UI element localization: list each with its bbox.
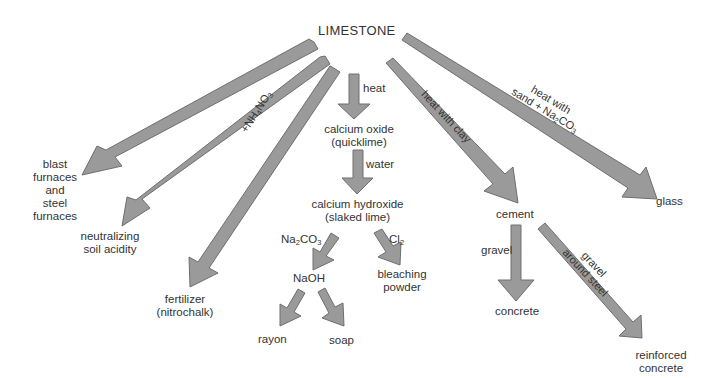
label-line: (slaked lime) <box>300 211 415 224</box>
node-reinforced-concrete: reinforced concrete <box>626 349 696 375</box>
label-line: fertilizer <box>150 293 220 306</box>
text: Na <box>281 233 296 245</box>
node-neutralizing-soil-acidity: neutralizing soil acidity <box>75 230 145 256</box>
label-line: (quicklime) <box>314 136 404 149</box>
arrow-to-concrete <box>498 225 534 301</box>
arrow-to-rayon <box>280 289 305 326</box>
arrow-heat <box>338 74 370 119</box>
label-line: (nitrochalk) <box>150 306 220 319</box>
label-line: calcium hydroxide <box>300 198 415 211</box>
node-bleaching-powder: bleaching powder <box>372 268 432 294</box>
node-rayon: rayon <box>258 333 287 346</box>
arrow-to-soap <box>318 288 344 326</box>
arrow-water <box>342 150 373 194</box>
label-line: neutralizing <box>75 230 145 243</box>
node-cement: cement <box>496 208 534 221</box>
node-concrete: concrete <box>495 305 539 318</box>
edge-label-cl2: Cl2 <box>389 233 404 246</box>
label-line: and <box>30 184 80 197</box>
label-line: calcium oxide <box>314 123 404 136</box>
label-line: furnaces <box>30 210 80 223</box>
arrow-to-neutralizing <box>122 56 330 226</box>
node-calcium-hydroxide: calcium hydroxide (slaked lime) <box>300 198 415 224</box>
label-line: blast <box>30 158 80 171</box>
edge-label-water: water <box>366 158 394 171</box>
label-line: reinforced <box>626 349 696 362</box>
node-naoh: NaOH <box>293 272 325 285</box>
subscript: 2 <box>400 238 404 247</box>
node-limestone: LIMESTONE <box>318 24 396 37</box>
label-line: concrete <box>626 362 696 375</box>
edge-label-heat: heat <box>363 82 385 95</box>
edge-label-gravel: gravel <box>481 244 512 257</box>
label-line: steel <box>30 197 80 210</box>
label-line: powder <box>372 281 432 294</box>
node-glass: glass <box>656 195 683 208</box>
label-line: furnaces <box>30 171 80 184</box>
text: Cl <box>389 233 400 245</box>
node-blast-furnaces: blast furnaces and steel furnaces <box>30 158 80 223</box>
label-line: bleaching <box>372 268 432 281</box>
edge-label-na2co3: Na2CO3 <box>281 233 321 246</box>
arrows-layer <box>0 0 717 378</box>
node-calcium-oxide: calcium oxide (quicklime) <box>314 123 404 149</box>
label-line: soil acidity <box>75 243 145 256</box>
subscript: 3 <box>317 238 321 247</box>
node-fertilizer: fertilizer (nitrochalk) <box>150 293 220 319</box>
text: CO <box>300 233 317 245</box>
node-soap: soap <box>329 334 354 347</box>
